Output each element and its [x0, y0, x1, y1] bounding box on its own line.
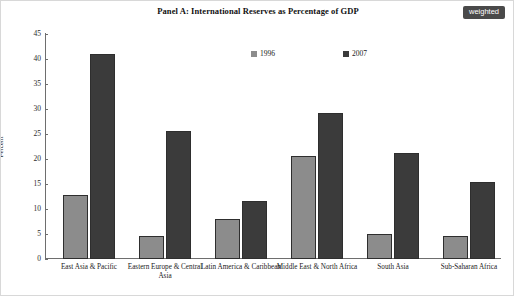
y-axis-line: [45, 33, 46, 260]
bar-group: [63, 34, 115, 259]
y-axis-tick-label: 30: [15, 105, 41, 113]
bar-2007[interactable]: [90, 54, 115, 259]
x-axis-tick-label: Middle East & North Africa: [274, 263, 360, 272]
y-axis-tick-label: 5: [15, 230, 41, 238]
plot-area: Percent 051015202530354045East Asia & Pa…: [45, 34, 501, 259]
y-axis-tick-mark: [45, 84, 48, 85]
y-axis-tick-mark: [45, 184, 48, 185]
x-axis-tick-label: Eastern Europe & Central Asia: [122, 263, 208, 281]
y-axis-tick-mark: [45, 109, 48, 110]
bar-2007[interactable]: [318, 113, 343, 260]
bar-2007[interactable]: [166, 131, 191, 259]
page-title: Panel A: International Reserves as Perce…: [1, 6, 514, 16]
y-axis-tick-mark: [45, 209, 48, 210]
x-axis-tick-label: East Asia & Pacific: [46, 263, 132, 272]
bar-1996[interactable]: [443, 236, 468, 259]
y-axis-tick-mark: [45, 59, 48, 60]
y-axis-tick-label: 10: [15, 205, 41, 213]
x-axis-tick-label: Sub-Saharan Africa: [426, 263, 512, 272]
chart-page: Panel A: International Reserves as Perce…: [0, 0, 514, 296]
weighted-badge[interactable]: weighted: [463, 6, 505, 19]
y-axis-tick-label: 25: [15, 130, 41, 138]
y-axis-tick-label: 15: [15, 180, 41, 188]
y-axis-label: Percent: [0, 136, 5, 157]
y-axis-tick-mark: [45, 234, 48, 235]
y-axis-tick-label: 40: [15, 55, 41, 63]
bar-1996[interactable]: [139, 236, 164, 259]
bar-1996[interactable]: [367, 234, 392, 259]
x-axis-tick-label: Latin America & Caribbean: [198, 263, 284, 272]
bar-1996[interactable]: [215, 219, 240, 259]
bar-group: [215, 34, 267, 259]
y-axis-tick-mark: [45, 134, 48, 135]
y-axis-tick-label: 0: [15, 255, 41, 263]
bar-1996[interactable]: [63, 195, 88, 260]
bar-group: [139, 34, 191, 259]
y-axis-tick-label: 45: [15, 30, 41, 38]
y-axis-tick-mark: [45, 159, 48, 160]
y-axis-tick-mark: [45, 34, 48, 35]
bar-1996[interactable]: [291, 156, 316, 259]
y-axis-tick-label: 35: [15, 80, 41, 88]
y-axis-tick-mark: [45, 259, 48, 260]
bar-group: [291, 34, 343, 259]
bar-2007[interactable]: [470, 182, 495, 259]
x-axis-tick-label: South Asia: [350, 263, 436, 272]
y-axis-tick-label: 20: [15, 155, 41, 163]
bar-2007[interactable]: [242, 201, 267, 260]
bar-group: [443, 34, 495, 259]
bar-2007[interactable]: [394, 153, 419, 259]
bar-group: [367, 34, 419, 259]
